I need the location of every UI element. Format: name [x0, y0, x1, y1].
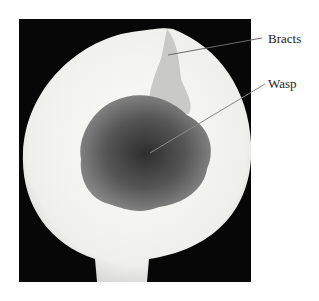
wasp-label: Wasp — [268, 77, 297, 90]
wasp-leader-line — [150, 84, 265, 153]
bracts-label: Bracts — [268, 32, 301, 45]
bracts-leader-line — [168, 38, 262, 55]
